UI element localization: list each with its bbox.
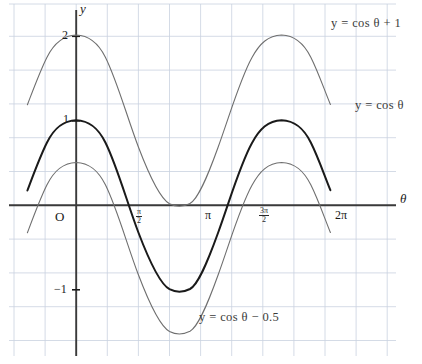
y-tick-label-2: 2	[62, 29, 68, 41]
fraction-denominator: 2	[136, 217, 142, 225]
x-tick-label-3pi-over-2: 3π 2	[259, 207, 269, 225]
curve-cos-theta-minus-0-5	[27, 163, 330, 334]
fraction-3pi-over-2: 3π 2	[259, 207, 269, 225]
fraction-pi-over-2: π 2	[136, 208, 142, 226]
y-axis-label: y	[80, 2, 86, 15]
grid-lines	[9, 4, 396, 356]
curve-label-cos-theta-plus-1: y = cos θ + 1	[331, 17, 401, 30]
fraction-denominator: 2	[259, 216, 269, 224]
y-tick-label-neg-1: −1	[54, 283, 67, 295]
curve-label-cos-theta: y = cos θ	[355, 99, 404, 112]
axes	[9, 10, 396, 356]
origin-label: O	[55, 210, 64, 223]
x-axis-label: θ	[400, 192, 406, 205]
x-tick-label-pi-over-2: π 2	[136, 208, 142, 226]
y-tick-label-1: 1	[63, 113, 69, 125]
x-tick-label-pi: π	[205, 209, 211, 221]
x-tick-label-2pi: 2π	[335, 209, 347, 221]
cosine-graph-figure: y θ 2 1 −1 O π 2 π 3π 2 2π y = cos θ + 1…	[0, 0, 422, 364]
curve-label-cos-theta-minus-0-5: y = cos θ − 0.5	[199, 311, 279, 324]
